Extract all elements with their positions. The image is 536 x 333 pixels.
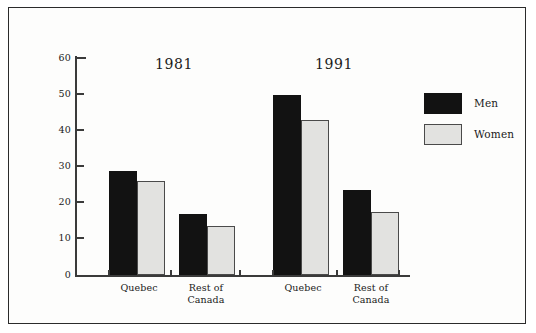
x-label-line: Rest of [331, 282, 411, 294]
y-tick-label-30: 30 [47, 160, 71, 171]
bar-1991-restofcanada-women [371, 212, 399, 275]
y-tick-label-40-wrap: 40 [45, 124, 71, 136]
y-tick-label-50: 50 [47, 88, 71, 99]
group-title-1991: 1991 [294, 56, 374, 72]
x-label-1981-restofcanada: Rest of Canada [166, 282, 246, 305]
y-tick-label-60-wrap: 60 [45, 52, 71, 64]
bar-1981-restofcanada-men [179, 214, 207, 275]
y-tick-label-40: 40 [47, 124, 71, 135]
chart-figure: 60 50 40 30 20 10 0 [0, 0, 536, 333]
legend-swatch-men [424, 93, 462, 114]
bar-1981-restofcanada-women [207, 226, 235, 275]
bar-1991-restofcanada-men [343, 190, 371, 275]
x-label-line: Canada [166, 294, 246, 306]
plot-area [75, 59, 405, 275]
y-tick-label-20-wrap: 20 [45, 196, 71, 208]
bar-1981-quebec-men [109, 171, 137, 275]
y-tick-label-0-wrap: 0 [45, 269, 71, 281]
x-tick-6 [398, 270, 400, 277]
legend-label-women: Women [474, 128, 514, 140]
legend-label-men: Men [474, 97, 498, 109]
y-tick-label-10-wrap: 10 [45, 232, 71, 244]
chart-frame: 60 50 40 30 20 10 0 [8, 7, 526, 324]
group-title-1981: 1981 [134, 56, 214, 72]
y-tick-label-50-wrap: 50 [45, 88, 71, 100]
y-tick-label-20: 20 [47, 196, 71, 207]
x-tick-3 [239, 270, 241, 277]
x-label-line: Rest of [166, 282, 246, 294]
x-label-line: Canada [331, 294, 411, 306]
x-tick-4 [272, 270, 274, 277]
bar-1991-quebec-men [273, 95, 301, 275]
x-tick-1 [108, 270, 110, 277]
bar-1991-quebec-women [301, 120, 329, 275]
legend-swatch-women [424, 124, 462, 145]
y-tick-label-10: 10 [47, 232, 71, 243]
y-tick-label-0: 0 [47, 269, 71, 280]
y-tick-label-60: 60 [47, 52, 71, 63]
x-tick-5 [336, 270, 338, 277]
x-label-1991-restofcanada: Rest of Canada [331, 282, 411, 305]
x-tick-2 [170, 270, 172, 277]
bar-1981-quebec-women [137, 181, 165, 275]
y-tick-label-30-wrap: 30 [45, 160, 71, 172]
x-axis-line [75, 275, 410, 277]
